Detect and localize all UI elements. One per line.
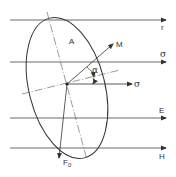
moment-arrow xyxy=(67,44,113,84)
label-r: r xyxy=(161,23,164,32)
principal-axis-short xyxy=(22,70,120,94)
label-sigma-line: σ xyxy=(160,49,166,59)
label-sigma-arrow: σ xyxy=(134,79,140,89)
diagram-canvas: A M α σ σ r E H F0 xyxy=(0,0,176,177)
centroid-point xyxy=(65,82,68,85)
force-arrow xyxy=(59,84,67,158)
label-e: E xyxy=(159,106,164,115)
cross-section-ellipse xyxy=(13,9,122,167)
alpha-arc-lower xyxy=(93,78,94,84)
diagram-svg: A M α σ σ r E H F0 xyxy=(0,0,176,177)
label-alpha: α xyxy=(92,65,98,75)
label-h: H xyxy=(159,152,165,161)
label-force: F0 xyxy=(63,158,72,168)
label-area: A xyxy=(69,37,75,46)
label-moment: M xyxy=(116,40,123,49)
